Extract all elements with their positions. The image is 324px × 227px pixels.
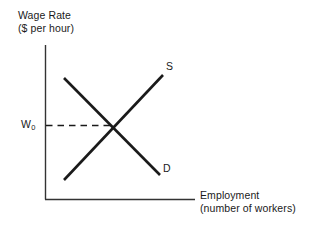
equilibrium-wage-subscript: 0 bbox=[31, 123, 35, 132]
y-axis-title: Wage Rate ($ per hour) bbox=[18, 9, 74, 34]
equilibrium-wage-symbol: W bbox=[21, 118, 31, 130]
supply-curve-label: S bbox=[166, 60, 173, 73]
demand-curve-label: D bbox=[163, 162, 171, 175]
x-axis-title-line1: Employment bbox=[200, 189, 259, 201]
x-axis-title-line2: (number of workers) bbox=[200, 202, 296, 215]
x-axis-title: Employment (number of workers) bbox=[200, 189, 296, 214]
equilibrium-wage-label: W0 bbox=[21, 118, 35, 133]
y-axis-title-line1: Wage Rate bbox=[18, 9, 71, 21]
y-axis-title-line2: ($ per hour) bbox=[18, 22, 74, 35]
labor-market-supply-demand-figure: Wage Rate ($ per hour) Employment (numbe… bbox=[0, 0, 324, 227]
